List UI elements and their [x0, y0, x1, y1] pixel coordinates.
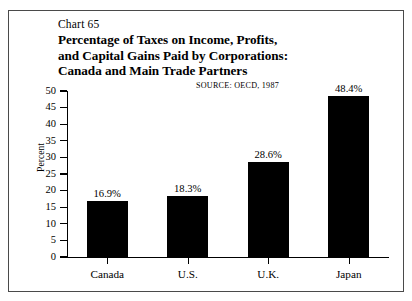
y-axis-tick: [60, 90, 67, 91]
x-axis-category-label: U.S.: [148, 268, 228, 280]
y-axis-tick: [60, 240, 67, 241]
x-axis-category-label: Canada: [67, 268, 147, 280]
x-axis-tick: [188, 258, 189, 264]
bar-value-label: 28.6%: [228, 149, 308, 160]
x-axis-category-label: Japan: [309, 268, 389, 280]
y-axis-tick-label: 45: [34, 102, 56, 113]
x-axis-category-label: U.K.: [228, 268, 308, 280]
bar-value-label: 18.3%: [148, 183, 228, 194]
y-axis-tick-label: 50: [34, 86, 56, 97]
y-axis-tick: [60, 256, 67, 257]
bar-uk[interactable]: [248, 162, 289, 257]
y-axis-tick: [60, 223, 67, 224]
y-axis-tick: [60, 207, 67, 208]
y-axis-tick-label: 5: [34, 235, 56, 246]
y-axis-tick: [60, 140, 67, 141]
y-axis-tick-label: 0: [34, 252, 56, 263]
bar-value-label: 16.9%: [67, 188, 147, 199]
x-axis-tick: [349, 258, 350, 264]
bar-canada[interactable]: [87, 201, 128, 257]
bar-value-label: 48.4%: [309, 83, 389, 94]
x-axis-tick: [107, 258, 108, 264]
y-axis-tick-label: 20: [34, 185, 56, 196]
y-axis-tick-label: 25: [34, 169, 56, 180]
y-axis-tick-label: 40: [34, 119, 56, 130]
y-axis-tick-label: 30: [34, 152, 56, 163]
y-axis-tick-label: 10: [34, 219, 56, 230]
plot-area: Percent 05101520253035404550 CanadaU.S.U…: [0, 0, 412, 301]
y-axis-tick: [60, 107, 67, 108]
y-axis-tick: [60, 124, 67, 125]
y-axis-tick-label: 35: [34, 136, 56, 147]
x-axis-tick: [268, 258, 269, 264]
bar-japan[interactable]: [328, 96, 369, 257]
bar-us[interactable]: [167, 196, 208, 257]
x-axis-line: [67, 257, 389, 258]
y-axis-tick-label: 15: [34, 202, 56, 213]
y-axis-tick: [60, 173, 67, 174]
y-axis-tick: [60, 190, 67, 191]
y-axis-line: [67, 91, 68, 258]
y-axis-tick: [60, 157, 67, 158]
